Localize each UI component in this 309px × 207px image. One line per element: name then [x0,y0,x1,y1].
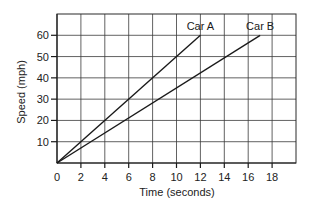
x-axis-ticks: 024681012141618 [54,163,278,183]
x-tick-label: 4 [102,171,108,183]
y-tick-label: 40 [37,72,49,84]
y-tick-label: 30 [37,93,49,105]
speed-time-chart: 102030405060 024681012141618 Car ACar B … [0,0,309,207]
x-tick-label: 0 [54,171,60,183]
y-tick-label: 20 [37,114,49,126]
y-axis-label: Speed (mph) [15,60,27,124]
series-label-car-a: Car A [187,20,215,32]
x-axis-label: Time (seconds) [139,186,214,198]
x-tick-label: 16 [242,171,254,183]
series-label-car-b: Car B [246,20,274,32]
y-tick-label: 60 [37,29,49,41]
x-tick-label: 14 [218,171,230,183]
x-tick-label: 2 [78,171,84,183]
y-tick-label: 50 [37,51,49,63]
x-tick-label: 10 [170,171,182,183]
x-tick-label: 8 [150,171,156,183]
x-tick-label: 6 [126,171,132,183]
y-tick-label: 10 [37,136,49,148]
x-tick-label: 12 [194,171,206,183]
x-tick-label: 18 [266,171,278,183]
y-axis-ticks: 102030405060 [37,29,57,147]
